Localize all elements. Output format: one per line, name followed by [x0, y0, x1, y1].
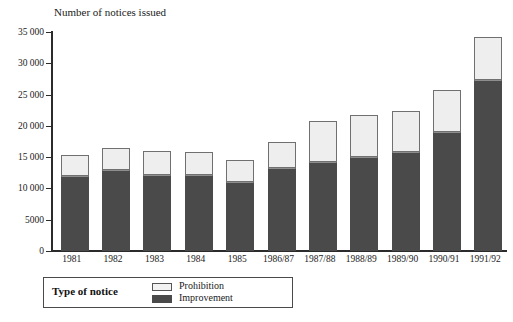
y-axis-tick-mark — [46, 157, 52, 158]
bar-stack — [309, 121, 337, 251]
y-axis-tick-label: 10 000 — [18, 183, 44, 193]
legend-label-improvement: Improvement — [179, 292, 233, 303]
bar-segment-improvement — [268, 168, 296, 251]
y-axis-tick-label: 5000 — [25, 215, 44, 225]
chart-figure: Number of notices issued 0500010 00015 0… — [0, 0, 513, 322]
chart-title: Number of notices issued — [54, 6, 166, 18]
x-axis-tick-label: 1981 — [51, 254, 92, 264]
y-axis-tick-mark — [46, 251, 52, 252]
plot-area: 0500010 00015 00020 00025 00030 00035 00… — [51, 32, 506, 251]
x-axis-tick-label: 1988/89 — [341, 254, 382, 264]
bar-segment-improvement — [226, 182, 254, 251]
bar-stack — [185, 152, 213, 251]
x-axis-tick-label: 1989/90 — [382, 254, 423, 264]
bar-stack — [350, 115, 378, 251]
bar-segment-improvement — [61, 176, 89, 251]
bar-segment-prohibition — [350, 115, 378, 156]
x-axis-tick-label: 1985 — [216, 254, 257, 264]
bar-stack — [226, 160, 254, 251]
bar-stack — [392, 111, 420, 251]
bar-segment-prohibition — [433, 90, 461, 133]
bar-segment-prohibition — [392, 111, 420, 152]
bar-segment-improvement — [474, 80, 502, 251]
x-axis-tick-label: 1982 — [92, 254, 133, 264]
bar-segment-improvement — [350, 157, 378, 251]
bar-segment-prohibition — [143, 151, 171, 175]
bar-segment-improvement — [392, 152, 420, 251]
y-axis-tick-mark — [46, 63, 52, 64]
bar-segment-prohibition — [61, 155, 89, 176]
x-axis-tick-label: 1987/88 — [299, 254, 340, 264]
x-axis-tick-label: 1984 — [175, 254, 216, 264]
bar-segment-prohibition — [102, 148, 130, 169]
y-axis-tick-label: 15 000 — [18, 152, 44, 162]
bar-segment-improvement — [433, 132, 461, 251]
y-axis-tick-label: 20 000 — [18, 121, 44, 131]
bar-segment-improvement — [102, 170, 130, 251]
x-axis-tick-label: 1990/91 — [423, 254, 464, 264]
y-axis-tick-label: 0 — [39, 246, 44, 256]
bar-segment-improvement — [309, 162, 337, 251]
x-axis-tick-label: 1991/92 — [465, 254, 506, 264]
bar-stack — [433, 90, 461, 251]
y-axis-tick-mark — [46, 95, 52, 96]
y-axis-tick-mark — [46, 188, 52, 189]
bar-stack — [143, 151, 171, 251]
bar-segment-prohibition — [268, 142, 296, 169]
bar-segment-prohibition — [474, 37, 502, 80]
bar-segment-improvement — [185, 175, 213, 251]
y-axis-tick-mark — [46, 220, 52, 221]
bar-stack — [102, 148, 130, 251]
chart-legend: Type of notice Prohibition Improvement — [43, 277, 293, 308]
x-axis-tick-label: 1983 — [134, 254, 175, 264]
y-axis-tick-mark — [46, 32, 52, 33]
x-axis-labels: 198119821983198419851986/871987/881988/8… — [51, 254, 507, 270]
bar-stack — [268, 142, 296, 252]
bar-stack — [61, 155, 89, 251]
bar-segment-prohibition — [309, 121, 337, 162]
y-axis-tick-label: 35 000 — [18, 27, 44, 37]
legend-swatch-improvement-icon — [152, 295, 172, 303]
bar-stack — [474, 37, 502, 251]
y-axis-tick-label: 30 000 — [18, 58, 44, 68]
bar-segment-improvement — [143, 175, 171, 251]
bar-segment-prohibition — [185, 152, 213, 176]
legend-swatch-prohibition-icon — [152, 283, 172, 291]
bar-segment-prohibition — [226, 160, 254, 181]
legend-title: Type of notice — [52, 285, 118, 297]
x-axis-tick-label: 1986/87 — [258, 254, 299, 264]
y-axis-tick-mark — [46, 126, 52, 127]
legend-label-prohibition: Prohibition — [179, 280, 224, 291]
y-axis-tick-label: 25 000 — [18, 90, 44, 100]
